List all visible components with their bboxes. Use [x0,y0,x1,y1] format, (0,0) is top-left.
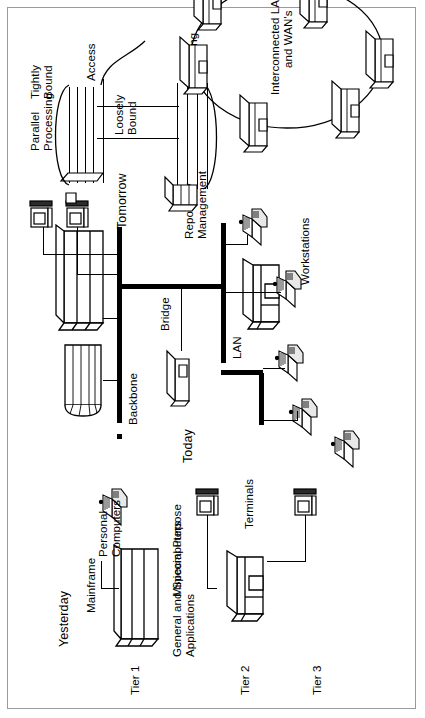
ring-server-icon-1 [177,37,211,95]
tier-2-label: Tier 2 [239,665,252,695]
panel-tomorrow: Tomorrow Repository Management Parallel … [11,9,415,247]
loosely-bound-rail-1 [97,138,179,139]
mainframe-label: Mainframe [85,558,98,613]
terminal-link-v2 [43,254,119,255]
mainframe-icon [111,545,163,649]
ws-drop-2 [225,292,281,293]
lan-stub-bus [259,373,264,425]
tomorrow-heading: Tomorrow [115,173,129,229]
today-storage-icon [59,339,107,419]
ring-server-icon-3 [329,81,363,139]
today-bridge-device-icon [163,349,193,407]
bridge-bus [117,284,225,289]
terminal-icon-1 [193,483,223,517]
bridge-label: Bridge [159,297,172,331]
tightly-bound-arc [47,79,73,189]
panel-today: Today Backbone LAN Bridge [11,249,415,481]
ring-server-icon-4 [191,0,225,31]
artwork-wrapper: Yesterday Tier 1 Tier 2 Tier 3 [0,0,425,718]
personal-computers-label: Personal Computers [97,500,122,557]
ring-server-icon-6 [363,31,397,89]
figure-page: Yesterday Tier 1 Tier 2 Tier 3 [0,0,425,718]
mini-to-terminal-h [305,514,306,562]
terminal-link-v1 [77,274,119,275]
backbone-bus [117,227,122,423]
terminal-icon-2 [291,483,321,517]
loosely-bound-rail-2 [97,106,179,107]
ws-drop-4h [297,411,298,421]
mainframe-connector-v [101,588,119,589]
panel-yesterday: Yesterday Tier 1 Tier 2 Tier 3 [11,484,415,709]
artwork-canvas: Yesterday Tier 1 Tier 2 Tier 3 [11,9,415,709]
mainframe-to-terminal-h [207,514,208,562]
backbone-label: Backbone [127,373,140,425]
ring-server-icon-5 [297,0,331,29]
ws-drop-3 [263,368,285,369]
mini-to-terminal-v [267,561,305,562]
loosely-bound-label: Loosely Bound [113,95,138,135]
repository-icon [161,173,203,213]
terminals-label: Terminals [243,479,256,529]
backbone-bullet [117,434,122,439]
bridge-device-link [181,289,182,351]
today-personal-computers-icon [329,427,363,471]
applications-leader [101,561,102,563]
today-storage-drop [103,380,119,381]
minicomputer-icon [223,551,267,623]
lan-stub-riser [221,370,263,375]
minicomputer-leader-v [207,588,217,589]
interconnected-label: Interconnected LAN's and WAN's [269,0,294,95]
mainframe-connector-h [101,563,102,589]
access-label: Access [85,43,98,81]
tier-1-label: Tier 1 [129,665,142,695]
today-workstation-icon-4 [287,395,321,439]
access-trunk [103,79,104,183]
ring-server-icon-2 [237,95,271,153]
tier-3-label: Tier 3 [311,665,324,695]
today-heading: Today [181,429,195,463]
minicomputers-label: Minicomputers [171,521,184,597]
today-workstation-icon-2 [271,267,305,311]
lan-label: LAN [231,336,244,359]
yesterday-heading: Yesterday [57,591,71,647]
access-curve [97,29,155,87]
today-mainframe-drop [103,318,119,319]
today-workstation-icon-3 [273,341,307,385]
ws-drop-4 [263,420,297,421]
